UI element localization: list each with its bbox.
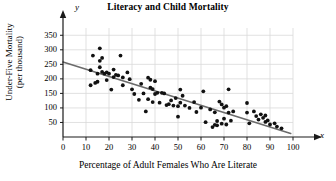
data-point [112, 68, 116, 72]
data-point [259, 112, 263, 116]
data-point [174, 96, 178, 100]
data-point [96, 72, 100, 76]
x-axis-tick-label: 40 [145, 142, 165, 152]
y-axis-tick-label: 250 [35, 59, 57, 69]
data-point [227, 87, 231, 91]
data-point [222, 117, 226, 121]
y-axis-tick-label: 100 [35, 102, 57, 112]
x-axis-tick-label: 90 [260, 142, 280, 152]
data-point [126, 71, 130, 75]
data-point [144, 110, 148, 114]
data-point [183, 104, 187, 108]
data-point [188, 106, 192, 110]
y-axis-arrow [60, 10, 66, 18]
x-axis-tick-label: 20 [99, 142, 119, 152]
data-point [96, 80, 100, 84]
scatter-chart-figure: Literacy and Child Mortality y x Under-F… [0, 0, 336, 181]
data-point [264, 114, 268, 118]
data-point [213, 110, 217, 114]
data-point [257, 118, 261, 122]
x-axis-tick-label: 70 [214, 142, 234, 152]
data-point [158, 101, 162, 105]
data-point [176, 104, 180, 108]
data-point [178, 101, 182, 105]
data-point [105, 78, 109, 82]
data-point [229, 119, 233, 123]
data-point [151, 87, 155, 91]
data-point [280, 126, 284, 130]
data-point [167, 102, 171, 106]
data-point [201, 89, 205, 93]
data-point [224, 123, 228, 127]
x-axis-tick-label: 80 [237, 142, 257, 152]
data-point [268, 123, 272, 127]
data-point [224, 104, 228, 108]
data-point [208, 107, 212, 111]
data-point [132, 92, 136, 96]
data-point [139, 82, 143, 86]
data-point [119, 54, 123, 58]
data-point [172, 104, 176, 108]
data-point [245, 111, 249, 115]
data-point [169, 98, 173, 102]
data-point [204, 120, 208, 124]
data-point [121, 83, 125, 87]
data-point [89, 83, 93, 87]
data-point [100, 56, 104, 60]
data-point [149, 78, 153, 82]
data-point [107, 72, 111, 76]
data-point [178, 88, 182, 92]
y-axis-tick-label: 300 [35, 44, 57, 54]
data-point [195, 110, 199, 114]
x-axis-tick-label: 100 [283, 142, 303, 152]
data-point [137, 98, 141, 102]
data-point [220, 122, 224, 126]
data-point [254, 114, 258, 118]
data-point [162, 92, 166, 96]
data-point [252, 110, 256, 114]
data-point [181, 94, 185, 98]
data-point [116, 73, 120, 77]
data-point [146, 97, 150, 101]
data-point [176, 115, 180, 119]
x-axis-tick-label: 60 [191, 142, 211, 152]
data-point [98, 46, 102, 50]
data-point [199, 106, 203, 110]
data-point [231, 110, 235, 114]
data-point [155, 91, 159, 95]
data-point [215, 119, 219, 123]
data-point [91, 54, 95, 58]
data-point [215, 123, 219, 127]
x-axis-arrow [314, 134, 322, 140]
data-point [227, 111, 231, 115]
data-point [247, 121, 251, 125]
data-point [121, 76, 125, 80]
data-point [192, 100, 196, 104]
data-point [220, 103, 224, 107]
y-axis-tick-label: 200 [35, 73, 57, 83]
data-point [153, 79, 157, 83]
data-point [142, 92, 146, 96]
x-axis-tick-label: 30 [122, 142, 142, 152]
x-axis-tick-label: 50 [168, 142, 188, 152]
data-point [130, 87, 134, 91]
data-point [266, 119, 270, 123]
x-axis-tick-label: 0 [53, 142, 73, 152]
y-axis-tick-label: 150 [35, 88, 57, 98]
data-point [151, 100, 155, 104]
data-point [245, 101, 249, 105]
y-axis-tick-label: 350 [35, 30, 57, 40]
y-axis-tick-label: 50 [35, 117, 57, 127]
data-point [273, 121, 277, 125]
data-point [275, 125, 279, 129]
x-axis-tick-label: 10 [76, 142, 96, 152]
data-point [89, 68, 93, 72]
data-point [128, 77, 132, 81]
data-point [109, 88, 113, 92]
data-point [98, 65, 102, 69]
